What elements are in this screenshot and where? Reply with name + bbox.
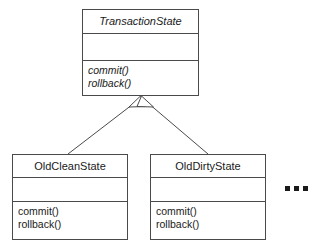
ellipsis-dot [285,186,290,191]
more-subclasses-ellipsis-icon [285,186,308,191]
class-name-transaction-state: TransactionState [99,15,181,28]
class-box-old-dirty-state[interactable]: OldDirtyState commit() rollback() [150,154,266,240]
operation-commit: commit() [156,205,197,218]
class-name-compartment: OldCleanState [13,155,127,177]
operation-rollback: rollback() [18,218,61,231]
generalization-arrowhead-left [129,96,146,107]
class-operations-compartment: commit() rollback() [83,60,198,95]
operation-rollback: rollback() [156,218,199,231]
class-name-compartment: OldDirtyState [151,155,265,177]
class-operations-compartment: commit() rollback() [13,201,127,239]
class-name-old-dirty-state: OldDirtyState [175,160,240,173]
operation-commit: commit() [88,64,129,77]
class-attributes-compartment [83,33,198,60]
class-attributes-compartment [151,177,265,201]
class-box-transaction-state[interactable]: TransactionState commit() rollback() [82,9,199,96]
operation-rollback: rollback() [88,77,131,90]
class-attributes-compartment [13,177,127,201]
class-operations-compartment: commit() rollback() [151,201,265,239]
uml-class-diagram: TransactionState commit() rollback() Old… [0,0,311,250]
operation-commit: commit() [18,205,59,218]
class-name-compartment: TransactionState [83,10,198,33]
class-name-old-clean-state: OldCleanState [34,160,106,173]
class-box-old-clean-state[interactable]: OldCleanState commit() rollback() [12,154,128,240]
generalization-line-olddirtystate [152,106,209,154]
generalization-arrowhead-right [137,96,154,107]
generalization-line-oldcleanstate [68,106,131,154]
ellipsis-dot [294,186,299,191]
ellipsis-dot [303,186,308,191]
